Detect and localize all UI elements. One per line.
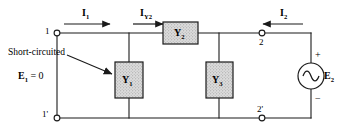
circuit-schematic-svg (0, 0, 341, 132)
callout-leader-line (67, 55, 112, 74)
terminal-label-2: 2 (259, 38, 264, 47)
terminal-label-2-prime: 2' (257, 105, 263, 114)
component-label-y3: Y3 (212, 75, 223, 88)
terminal-node-1 (54, 30, 60, 36)
current-label-i2: I2 (280, 8, 287, 21)
terminal-label-1-prime: 1' (42, 110, 48, 119)
source-label-e2: E2 (324, 71, 334, 84)
y1-subscript: 1 (129, 80, 132, 87)
short-circuited-note: Short-circuited (8, 48, 65, 58)
terminal-node-2 (259, 30, 265, 36)
component-label-y1: Y1 (122, 75, 133, 88)
ac-source-symbol (298, 63, 324, 89)
source-minus-sign: − (315, 94, 321, 104)
terminal-label-1: 1 (45, 27, 50, 36)
e2-subscript: 2 (331, 76, 334, 83)
current-iy2-subscript: Y2 (144, 13, 152, 20)
component-label-y2: Y2 (174, 28, 185, 41)
current-i1-subscript: 1 (86, 13, 89, 20)
wire-group (57, 33, 311, 118)
short-circuit-callout-arrow (67, 55, 112, 74)
circuit-diagram-figure: 1 1' 2 2' I1 IY2 I2 Y1 Y2 Y3 E2 + − Shor… (0, 0, 341, 132)
e2-symbol: E (324, 70, 331, 81)
terminal-node-1-prime (54, 115, 60, 121)
e1-symbol: E (18, 70, 25, 81)
y2-subscript: 2 (181, 33, 184, 40)
y3-subscript: 3 (219, 80, 222, 87)
e1-equals-zero: = 0 (30, 70, 43, 81)
input-voltage-annotation: E1 = 0 (18, 71, 44, 84)
source-plus-sign: + (315, 50, 321, 60)
current-label-iy2: IY2 (140, 8, 152, 21)
current-i2-subscript: 2 (284, 13, 287, 20)
current-label-i1: I1 (82, 8, 89, 21)
terminal-node-2-prime (259, 115, 265, 121)
